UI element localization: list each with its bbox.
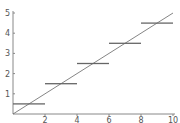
x-tick-label: 8: [138, 116, 143, 123]
y-tick-label: 3: [5, 49, 10, 58]
y-tick-label: 4: [5, 29, 10, 38]
series: [13, 13, 173, 114]
y-tick-label: 2: [5, 70, 10, 79]
chart: 24681012345: [0, 0, 180, 123]
x-tick-label: 10: [168, 116, 178, 123]
x-tick-label: 6: [106, 116, 111, 123]
y-tick-label: 5: [5, 9, 10, 18]
y-tick-label: 1: [5, 90, 10, 99]
plot-area: 24681012345: [0, 0, 180, 123]
x-tick-label: 4: [74, 116, 79, 123]
x-tick-label: 2: [42, 116, 47, 123]
